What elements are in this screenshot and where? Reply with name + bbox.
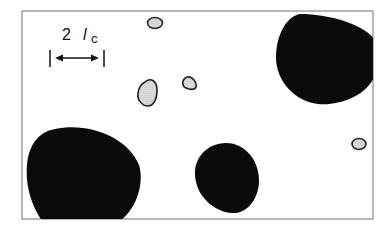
scale-subscript: c [91, 31, 98, 46]
scale-symbol: l [83, 26, 87, 43]
small-particle-top [148, 18, 163, 29]
particle-diagram: 2 l c [0, 0, 392, 229]
scale-number: 2 [62, 26, 71, 43]
small-particle-right [352, 139, 366, 150]
